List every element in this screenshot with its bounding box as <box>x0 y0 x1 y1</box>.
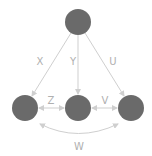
label-y: Y <box>69 56 77 67</box>
node-right <box>118 95 144 121</box>
edge-u <box>85 33 124 96</box>
causal-diagram: X Y U Z V W <box>0 0 152 156</box>
node-middle <box>65 95 91 121</box>
label-x: X <box>37 56 44 67</box>
edge-w <box>40 124 118 134</box>
node-top <box>65 9 91 35</box>
label-v: V <box>102 95 109 106</box>
label-u: U <box>109 56 116 67</box>
label-z: Z <box>48 95 55 106</box>
node-left <box>12 95 38 121</box>
label-w: W <box>74 141 84 152</box>
